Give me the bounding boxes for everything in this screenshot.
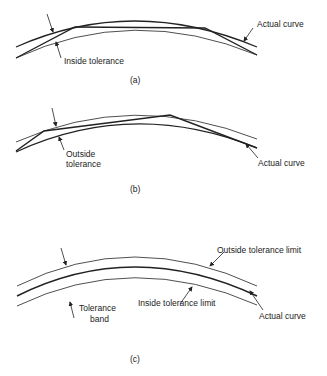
approx-polyline <box>16 115 257 151</box>
label-outside-tolerance-1: Outside <box>66 149 95 159</box>
arrow-top <box>52 108 56 126</box>
caption-c: (c) <box>130 354 140 364</box>
label-outside-tolerance-2: tolerance <box>66 159 101 169</box>
arrow-band <box>70 302 74 318</box>
arrow-inside <box>56 42 61 58</box>
caption-a: (a) <box>130 75 140 85</box>
arrow-top <box>47 14 53 32</box>
label-tolerance-band-1: Tolerance <box>79 303 116 313</box>
label-actual-curve-b: Actual curve <box>258 158 305 168</box>
arrow-outside <box>59 137 64 150</box>
arrow-actual <box>244 28 253 41</box>
panel-b <box>16 108 258 158</box>
caption-b: (b) <box>130 184 140 194</box>
label-actual-curve-a: Actual curve <box>257 19 304 29</box>
label-inside-tolerance: Inside tolerance <box>64 56 124 66</box>
outer-curve <box>16 21 257 47</box>
label-outside-tolerance-limit: Outside tolerance limit <box>217 245 301 255</box>
label-actual-curve-c: Actual curve <box>259 311 306 321</box>
panel-a <box>16 14 257 58</box>
arrow-top <box>61 248 66 265</box>
label-inside-tolerance-limit: Inside tolerance limit <box>138 298 215 308</box>
label-tolerance-band-2: band <box>90 314 109 324</box>
arrow-actual <box>250 291 263 310</box>
